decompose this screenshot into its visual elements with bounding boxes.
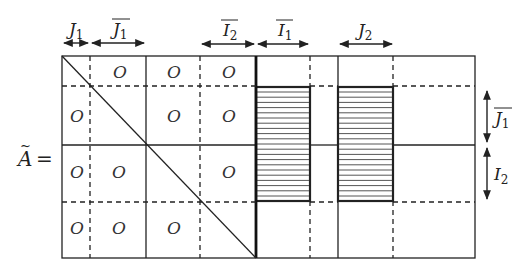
zero-block: O [222,162,236,182]
label-I1bar: I1 [276,20,293,43]
hatched-block-J2 [338,87,393,201]
tilde-accent: ~ [20,138,31,153]
svg-text:J2: J2 [355,20,372,43]
right-labels: J1 I2 [492,108,512,187]
label-J2: J2 [355,20,372,43]
zero-block: O [70,162,84,182]
label-right-I2: I2 [493,164,508,187]
top-arrows [64,43,392,44]
svg-text:I2: I2 [222,20,237,43]
label-J1bar: J1 [110,19,130,42]
svg-text:J1: J1 [492,108,509,131]
svg-text:I2: I2 [493,164,508,187]
svg-text:J1: J1 [66,19,83,42]
zero-block: O [112,218,126,238]
zero-block: O [222,106,236,126]
zero-block: O [113,62,127,82]
label-I2bar: I2 [221,20,238,43]
svg-text:J1: J1 [110,19,127,42]
zero-block: O [222,62,236,82]
top-labels: J1 J1 I2 I1 J2 [66,19,372,43]
zero-block: O [167,106,181,126]
block-matrix-diagram: A ~ = O O [0,0,522,278]
equals-sign: = [36,147,53,171]
zero-block: O [112,162,126,182]
label-right-J1bar: J1 [492,108,512,131]
zero-block: O [167,218,181,238]
matrix-label: A ~ = [16,138,53,171]
svg-text:I1: I1 [277,20,292,43]
hatched-block-I1bar [256,87,310,201]
label-J1: J1 [66,19,83,42]
zero-block: O [167,62,181,82]
zero-block: O [70,218,84,238]
zero-block: O [70,106,84,126]
